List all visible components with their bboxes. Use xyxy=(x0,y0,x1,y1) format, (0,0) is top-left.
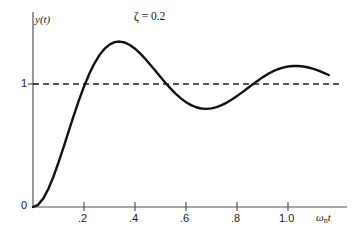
x-tick-label-0: .2 xyxy=(78,213,87,224)
step-response-curve xyxy=(33,42,329,207)
y-tick-label-1: 1 xyxy=(21,78,27,89)
chart-figure: y(t) 0 1 .2 .4 .6 .8 1.0 ωnt ζ = 0.2 xyxy=(0,0,355,236)
x-tick-label-3: .8 xyxy=(231,213,240,224)
y-axis-title: y(t) xyxy=(35,14,50,25)
x-axis-title-variable: t xyxy=(328,211,331,223)
damping-ratio-annotation: ζ = 0.2 xyxy=(134,11,165,23)
x-tick-label-1: .4 xyxy=(129,213,138,224)
x-axis-title: ωnt xyxy=(316,212,331,225)
x-axis-title-omega: ω xyxy=(316,211,324,223)
x-tick-label-2: .6 xyxy=(180,213,189,224)
origin-tick-label: 0 xyxy=(21,200,27,211)
plot-canvas xyxy=(0,0,355,236)
x-tick-label-4: 1.0 xyxy=(279,213,294,224)
